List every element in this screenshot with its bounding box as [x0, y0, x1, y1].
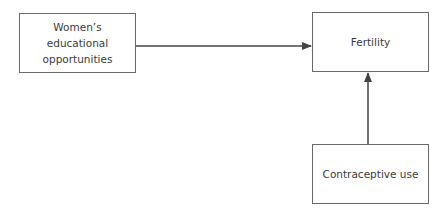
node-fertility: Fertility: [312, 12, 429, 72]
node-womens-educational-opportunities: Women’s educational opportunities: [19, 13, 136, 73]
node-label: Fertility: [351, 34, 390, 50]
node-label: Women’s educational opportunities: [43, 19, 113, 67]
node-label: Contraceptive use: [323, 166, 419, 182]
node-contraceptive-use: Contraceptive use: [312, 144, 429, 204]
